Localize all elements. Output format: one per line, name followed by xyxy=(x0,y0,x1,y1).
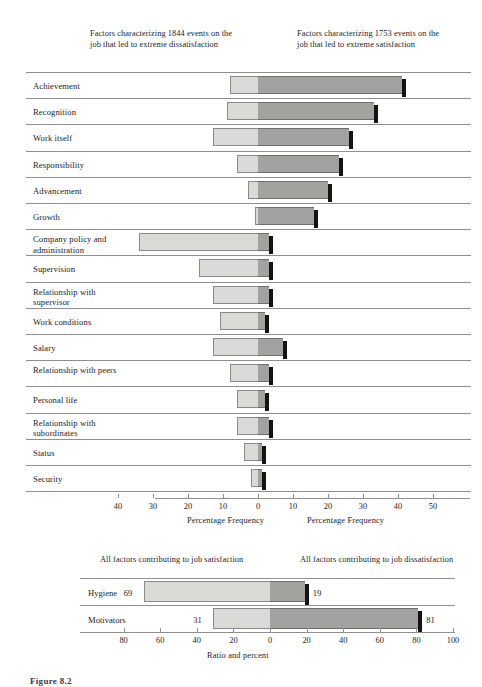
axis-tick-label: 80 xyxy=(401,636,431,645)
bar-dissatisfaction xyxy=(237,390,258,408)
bar-dissatisfaction xyxy=(199,259,259,277)
top-right-header: Factors characterizing 1753 events on th… xyxy=(297,28,452,50)
bar-dissatisfaction xyxy=(237,155,258,173)
axis-tick xyxy=(453,628,454,632)
bar-shadow xyxy=(269,289,273,307)
axis-tick-label: 20 xyxy=(313,502,343,511)
axis-tick xyxy=(433,494,434,498)
axis-tick-label: 20 xyxy=(292,636,322,645)
axis-tick-label: 10 xyxy=(278,502,308,511)
bar-dissatisfaction xyxy=(213,286,259,304)
row-divider xyxy=(26,491,471,492)
axis-line xyxy=(80,632,455,633)
right-axis-title: Percentage Frequency xyxy=(307,516,384,525)
axis-tick xyxy=(380,628,381,632)
bar-dissatisfaction xyxy=(230,364,258,382)
top-left-header: Factors characterizing 1844 events on th… xyxy=(90,28,240,50)
axis-tick-label: 0 xyxy=(243,502,273,511)
bar-shadow xyxy=(265,315,269,333)
bar-dissatisfaction xyxy=(244,443,258,461)
axis-tick-label: 60 xyxy=(365,636,395,645)
row-divider xyxy=(26,203,471,204)
axis-tick-label: 40 xyxy=(328,636,358,645)
row-divider xyxy=(26,124,471,125)
row-divider xyxy=(26,465,471,466)
category-label: Status xyxy=(33,448,128,458)
bar-shadow xyxy=(269,367,273,385)
bar-dissatisfaction xyxy=(270,608,418,629)
bottom-left-header: All factors contributing to job satisfac… xyxy=(100,554,250,565)
bar-dissatisfaction xyxy=(270,581,305,602)
bar-satisfaction xyxy=(144,581,270,602)
bottom-right-header: All factors contributing to job dissatis… xyxy=(300,554,460,565)
bottom-axis-title: Ratio and percent xyxy=(207,651,269,660)
job-attitude-factors-chart: Factors characterizing 1844 events on th… xyxy=(0,0,482,535)
bar-satisfaction xyxy=(258,259,269,277)
category-label: Security xyxy=(33,474,128,484)
bar-satisfaction xyxy=(258,338,283,356)
axis-tick-label: 40 xyxy=(103,502,133,511)
bar-dissatisfaction xyxy=(139,233,258,251)
left-axis-title: Percentage Frequency xyxy=(187,516,264,525)
bar-satisfaction xyxy=(258,417,269,435)
axis-tick-label: 30 xyxy=(138,502,168,511)
axis-tick xyxy=(307,628,308,632)
axis-tick xyxy=(197,628,198,632)
axis-tick xyxy=(153,494,154,498)
category-label: Motivators xyxy=(88,615,126,625)
bar-satisfaction xyxy=(258,102,374,120)
bar-satisfaction xyxy=(258,181,328,199)
category-label: Advancement xyxy=(33,186,128,196)
row-divider xyxy=(26,177,471,178)
bar-satisfaction xyxy=(258,312,265,330)
axis-tick-label: 40 xyxy=(383,502,413,511)
row-divider xyxy=(26,413,471,414)
row-divider xyxy=(80,578,455,579)
row-divider xyxy=(26,255,471,256)
bar-shadow xyxy=(418,611,422,632)
bar-satisfaction xyxy=(258,390,265,408)
category-label: Supervision xyxy=(33,264,128,274)
axis-tick xyxy=(223,494,224,498)
category-label: Achievement xyxy=(33,81,128,91)
row-divider xyxy=(26,308,471,309)
row-divider xyxy=(26,334,471,335)
bar-shadow xyxy=(269,262,273,280)
axis-tick xyxy=(416,628,417,632)
axis-tick xyxy=(363,494,364,498)
bar-dissatisfaction xyxy=(213,128,259,146)
bar-dissatisfaction xyxy=(237,417,258,435)
bar-shadow xyxy=(269,236,273,254)
bar-shadow xyxy=(262,446,266,464)
axis-tick-label: 20 xyxy=(173,502,203,511)
bar-satisfaction xyxy=(258,233,269,251)
row-divider xyxy=(26,229,471,230)
category-label: Recognition xyxy=(33,107,128,117)
bar-value-label: 69 xyxy=(124,588,133,598)
category-label: Salary xyxy=(33,343,128,353)
bar-shadow xyxy=(283,341,287,359)
row-divider xyxy=(26,386,471,387)
row-divider xyxy=(26,282,471,283)
category-label: Responsibility xyxy=(33,160,128,170)
bar-shadow xyxy=(328,184,332,202)
row-divider xyxy=(26,72,471,73)
axis-tick-label: 20 xyxy=(218,636,248,645)
bar-satisfaction xyxy=(258,286,269,304)
bar-value-label: 19 xyxy=(313,588,322,598)
axis-tick xyxy=(293,494,294,498)
row-divider xyxy=(26,439,471,440)
category-label: Company policy and administration xyxy=(33,234,128,255)
bar-shadow xyxy=(269,420,273,438)
bar-shadow xyxy=(402,79,406,97)
bar-satisfaction xyxy=(258,128,349,146)
bar-satisfaction xyxy=(213,608,270,629)
bar-dissatisfaction xyxy=(213,338,259,356)
category-label: Relationship with supervisor xyxy=(33,287,128,308)
axis-tick xyxy=(118,494,119,498)
bar-shadow xyxy=(262,472,266,490)
bar-shadow xyxy=(305,584,309,605)
axis-tick-label: 30 xyxy=(348,502,378,511)
bar-dissatisfaction xyxy=(227,102,259,120)
axis-tick-label: 0 xyxy=(255,636,285,645)
